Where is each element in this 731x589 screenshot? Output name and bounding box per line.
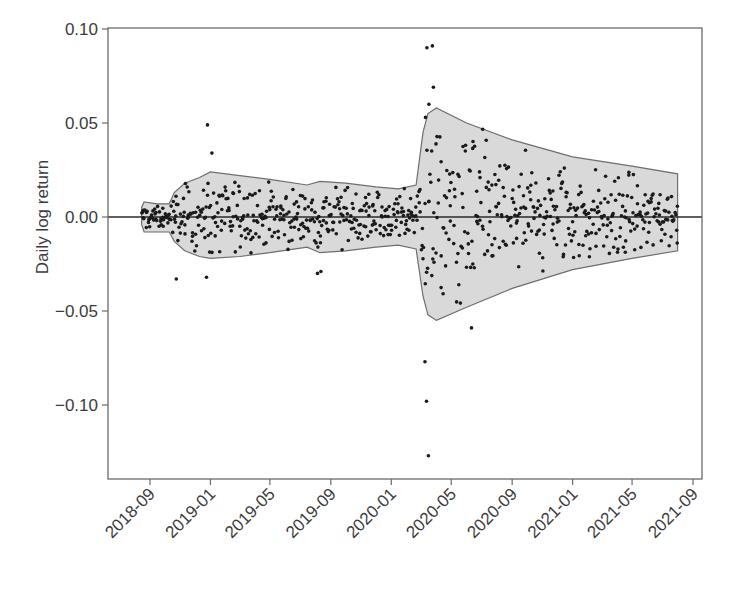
data-point xyxy=(675,241,679,245)
data-point xyxy=(145,209,149,213)
data-point xyxy=(268,208,272,212)
data-point xyxy=(481,128,485,132)
data-point xyxy=(273,231,277,235)
data-point xyxy=(591,222,595,226)
data-point xyxy=(534,181,538,185)
data-point xyxy=(542,232,546,236)
data-point xyxy=(324,200,328,204)
data-point xyxy=(319,270,323,274)
data-point xyxy=(487,188,491,192)
data-point xyxy=(660,228,664,232)
data-point xyxy=(238,190,242,194)
data-point xyxy=(193,249,197,253)
data-point xyxy=(267,180,271,184)
data-point xyxy=(498,246,502,250)
data-point xyxy=(273,217,277,221)
data-point xyxy=(590,231,594,235)
data-point xyxy=(449,204,453,208)
data-point xyxy=(500,215,504,219)
data-point xyxy=(624,239,628,243)
data-point xyxy=(256,204,260,208)
data-point xyxy=(275,205,279,209)
data-point xyxy=(594,232,598,236)
data-point xyxy=(325,196,329,200)
data-point xyxy=(621,205,625,209)
data-point xyxy=(467,242,471,246)
data-point xyxy=(358,232,362,236)
data-point xyxy=(601,223,605,227)
data-point xyxy=(599,201,603,205)
data-point xyxy=(187,190,191,194)
data-point xyxy=(582,203,586,207)
data-point xyxy=(145,226,149,230)
data-point xyxy=(533,210,537,214)
data-point xyxy=(574,214,578,218)
data-point xyxy=(657,202,661,206)
data-point xyxy=(210,251,214,255)
data-point xyxy=(587,212,591,216)
data-point xyxy=(555,243,559,247)
data-point xyxy=(470,326,474,330)
data-point xyxy=(418,210,422,214)
data-point xyxy=(374,222,378,226)
data-point xyxy=(411,218,415,222)
data-point xyxy=(272,195,276,199)
data-point xyxy=(213,215,217,219)
data-point xyxy=(633,248,637,252)
data-point xyxy=(490,243,494,247)
data-point xyxy=(557,173,561,177)
data-point xyxy=(613,180,617,184)
data-point xyxy=(425,149,429,153)
data-point xyxy=(354,192,358,196)
data-point xyxy=(453,195,457,199)
x-tick-label: 2018-09 xyxy=(101,484,159,542)
data-point xyxy=(244,236,248,240)
data-point xyxy=(561,180,565,184)
data-point xyxy=(557,219,561,223)
data-point xyxy=(550,229,554,233)
x-tick-label: 2019-09 xyxy=(282,484,340,542)
data-point xyxy=(302,235,306,239)
data-point xyxy=(286,248,290,252)
data-point xyxy=(504,243,508,247)
data-point xyxy=(382,234,386,238)
data-point xyxy=(229,220,233,224)
data-point xyxy=(194,210,198,214)
data-point xyxy=(303,197,307,201)
data-point xyxy=(529,198,533,202)
data-point xyxy=(509,224,513,228)
data-point xyxy=(340,248,344,252)
data-point xyxy=(409,197,413,201)
data-point xyxy=(271,205,275,209)
data-point xyxy=(530,229,534,233)
data-point xyxy=(609,193,613,197)
data-point xyxy=(451,171,455,175)
x-tick-label: 2021-01 xyxy=(524,484,582,542)
data-point xyxy=(660,239,664,243)
data-point xyxy=(478,219,482,223)
data-point xyxy=(374,228,378,232)
data-point xyxy=(445,169,449,173)
data-point xyxy=(386,215,390,219)
data-point xyxy=(478,170,482,174)
data-point xyxy=(297,228,301,232)
data-point xyxy=(597,210,601,214)
data-point xyxy=(552,237,556,241)
data-point xyxy=(425,46,429,50)
data-point xyxy=(212,191,216,195)
data-point xyxy=(398,195,402,199)
data-point xyxy=(365,202,369,206)
data-point xyxy=(438,135,442,139)
data-point xyxy=(569,202,573,206)
data-point xyxy=(395,219,399,223)
data-point xyxy=(223,222,227,226)
data-point xyxy=(241,217,245,221)
data-point xyxy=(174,195,178,199)
data-point xyxy=(648,221,652,225)
data-point xyxy=(400,221,404,225)
data-point xyxy=(290,238,294,242)
y-tick-label: 0.00 xyxy=(65,208,98,227)
data-point xyxy=(337,200,341,204)
data-point xyxy=(602,214,606,218)
data-point xyxy=(630,196,634,200)
